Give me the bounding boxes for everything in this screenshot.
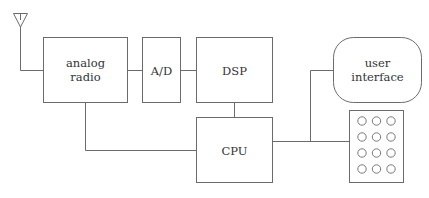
cpu-label: CPU [221, 144, 247, 158]
analog-radio-label-line2: radio [70, 70, 100, 84]
keypad-key [372, 149, 380, 157]
analog-radio-label-line1: analog [66, 56, 106, 70]
keypad-key [358, 117, 366, 125]
user-interface-label-line2: interface [351, 70, 404, 84]
block-diagram: analog radio A/D DSP CPU user interface [0, 0, 429, 198]
user-interface-label-line1: user [365, 56, 391, 70]
dsp-block: DSP [197, 38, 273, 103]
wire-bus-ui [311, 71, 334, 142]
wire-antenna-radio [21, 27, 44, 71]
keypad-key [358, 133, 366, 141]
wire-radio-cpu [86, 103, 197, 151]
user-interface-block: user interface [334, 38, 422, 103]
ad-label: A/D [150, 64, 172, 78]
ad-converter-block: A/D [143, 38, 181, 103]
keypad-key [372, 117, 380, 125]
dsp-label: DSP [222, 64, 247, 78]
cpu-block: CPU [197, 118, 273, 183]
keypad-key [387, 165, 395, 173]
keypad-key [387, 133, 395, 141]
keypad-key [387, 117, 395, 125]
keypad-key [358, 149, 366, 157]
keypad-key [372, 165, 380, 173]
keypad-key [372, 133, 380, 141]
analog-radio-block: analog radio [44, 38, 128, 103]
keypad-key [387, 149, 395, 157]
keypad-block [350, 111, 404, 183]
keypad-key [358, 165, 366, 173]
antenna-icon [14, 14, 28, 28]
